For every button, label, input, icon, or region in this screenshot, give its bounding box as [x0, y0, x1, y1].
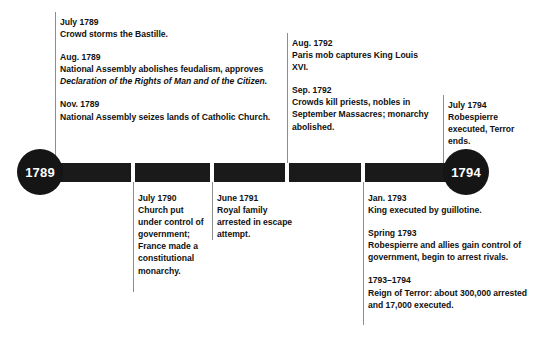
event-description-italic: Declaration of the Rights of Man and of … — [60, 76, 267, 86]
event-item: Sep. 1792 Crowds kill priests, nobles in… — [292, 84, 432, 132]
event-group-1791: June 1791 Royal family arrested in escap… — [217, 192, 297, 240]
event-item: July 1790 Church put under control of go… — [138, 192, 208, 277]
event-date: Jan. 1793 — [368, 192, 533, 204]
event-date: June 1791 — [217, 192, 297, 204]
event-date: 1793–1794 — [368, 274, 533, 286]
event-description-text: National Assembly abolishes feudalism, a… — [60, 64, 263, 74]
event-description: Crowds kill priests, nobles in September… — [292, 96, 432, 132]
event-date: Nov. 1789 — [60, 98, 285, 110]
event-description: National Assembly seizes lands of Cathol… — [60, 111, 285, 123]
timeline-notch-1792 — [285, 163, 289, 182]
event-item: July 1789 Crowd storms the Bastille. — [60, 16, 285, 40]
event-item: Jan. 1793 King executed by guillotine. — [368, 192, 533, 216]
event-date: July 1789 — [60, 16, 285, 28]
timeline-notch-1791 — [210, 163, 214, 182]
event-date: July 1790 — [138, 192, 208, 204]
event-description: Crowd storms the Bastille. — [60, 28, 285, 40]
timeline-notch-1790 — [131, 163, 135, 182]
timeline-start-label: 1789 — [25, 165, 55, 180]
event-description: National Assembly abolishes feudalism, a… — [60, 63, 285, 87]
event-date: Aug. 1792 — [292, 37, 432, 49]
event-description: Royal family arrested in escape attempt. — [217, 204, 297, 240]
timeline-end-marker: 1794 — [443, 149, 489, 195]
event-item: Nov. 1789 National Assembly seizes lands… — [60, 98, 285, 122]
timeline-bar — [40, 163, 465, 182]
connector-line-1791 — [212, 175, 213, 240]
event-item: Aug. 1792 Paris mob captures King Louis … — [292, 37, 432, 73]
event-date: Sep. 1792 — [292, 84, 432, 96]
event-description: Reign of Terror: about 300,000 arrested … — [368, 287, 533, 311]
event-item: Aug. 1789 National Assembly abolishes fe… — [60, 51, 285, 87]
timeline-infographic: 1789 1794 July 1789 Crowd storms the Bas… — [0, 0, 555, 339]
event-group-1790: July 1790 Church put under control of go… — [138, 192, 208, 277]
event-date: July 1794 — [448, 99, 523, 111]
event-description: King executed by guillotine. — [368, 204, 533, 216]
event-description: Church put under control of government; … — [138, 204, 208, 277]
event-date: Spring 1793 — [368, 227, 533, 239]
event-description: Paris mob captures King Louis XVI. — [292, 49, 432, 73]
event-item: July 1794 Robespierre executed, Terror e… — [448, 99, 523, 147]
event-item: 1793–1794 Reign of Terror: about 300,000… — [368, 274, 533, 310]
connector-line-1790 — [133, 175, 134, 292]
connector-line-1793 — [363, 175, 364, 325]
connector-line-1794 — [443, 95, 444, 170]
event-description: Robespierre executed, Terror ends. — [448, 111, 523, 147]
event-item: June 1791 Royal family arrested in escap… — [217, 192, 297, 240]
event-group-1789: July 1789 Crowd storms the Bastille. Aug… — [60, 16, 285, 123]
event-description: Robespierre and allies gain control of g… — [368, 239, 533, 263]
event-date: Aug. 1789 — [60, 51, 285, 63]
event-item: Spring 1793 Robespierre and allies gain … — [368, 227, 533, 263]
connector-line-1792 — [287, 33, 288, 170]
timeline-end-label: 1794 — [451, 165, 481, 180]
event-group-1793: Jan. 1793 King executed by guillotine. S… — [368, 192, 533, 311]
event-group-1792: Aug. 1792 Paris mob captures King Louis … — [292, 37, 432, 133]
timeline-start-marker: 1789 — [17, 149, 63, 195]
event-group-1794: July 1794 Robespierre executed, Terror e… — [448, 99, 523, 147]
timeline-notch-1793 — [361, 163, 365, 182]
connector-line-1789 — [55, 12, 56, 170]
